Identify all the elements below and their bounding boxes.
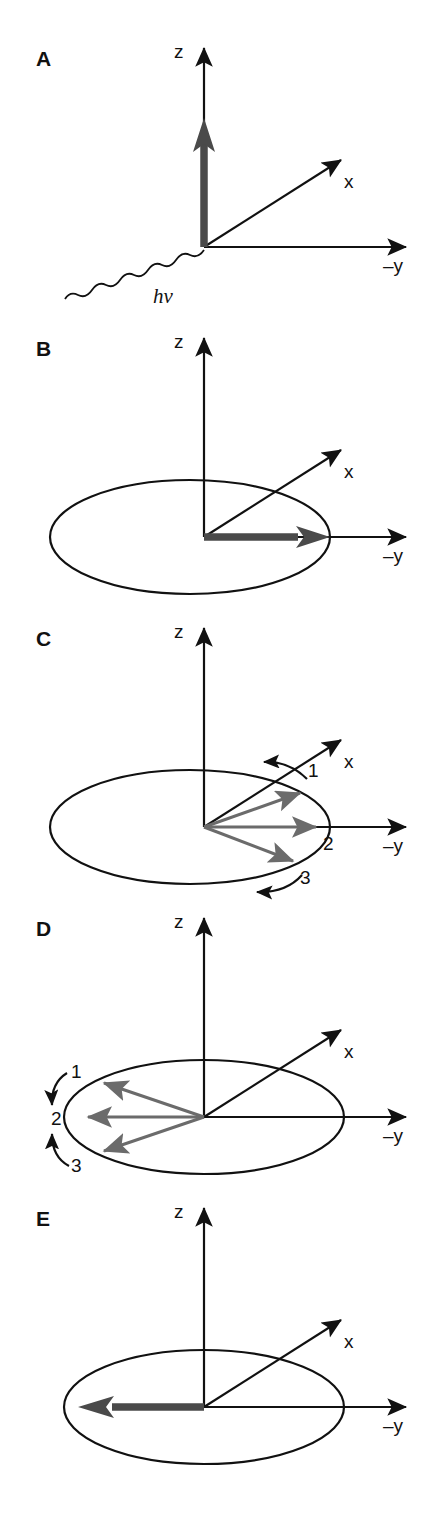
panel-c-y-label: –y — [383, 835, 404, 856]
panel-e-y-label: –y — [383, 1415, 404, 1436]
panel-d-x-label: x — [344, 1041, 354, 1062]
panel-d-label-1: 1 — [71, 1061, 82, 1082]
figure-container: A z –y x hv B z –y x — [0, 0, 444, 1517]
panel-d-label-2: 2 — [51, 1108, 62, 1129]
panel-c-letter: C — [36, 627, 51, 650]
panel-c-z-label: z — [174, 621, 184, 642]
panel-c-label-3: 3 — [300, 867, 311, 888]
panel-b-z-label: z — [174, 331, 184, 352]
panel-c-x-label: x — [344, 751, 354, 772]
panel-a-z-label: z — [174, 41, 184, 62]
panel-e-z-label: z — [174, 1201, 184, 1222]
photon-label: hv — [153, 284, 174, 308]
panel-b-y-label: –y — [383, 545, 404, 566]
panel-c-label-2: 2 — [323, 833, 334, 854]
panel-d-letter: D — [36, 917, 51, 940]
panel-a-letter: A — [36, 47, 51, 70]
panel-e-x-label: x — [344, 1331, 354, 1352]
panel-d-y-label: –y — [383, 1125, 404, 1146]
panel-d-z-label: z — [174, 911, 184, 932]
panel-e-letter: E — [36, 1207, 50, 1230]
panel-d-label-3: 3 — [71, 1155, 82, 1176]
panel-b-letter: B — [36, 337, 51, 360]
panel-c-label-1: 1 — [308, 760, 319, 781]
figure-background — [0, 0, 444, 1517]
panel-a-x-label: x — [344, 171, 354, 192]
panel-a-y-label: –y — [383, 255, 404, 276]
panel-b-x-label: x — [344, 461, 354, 482]
